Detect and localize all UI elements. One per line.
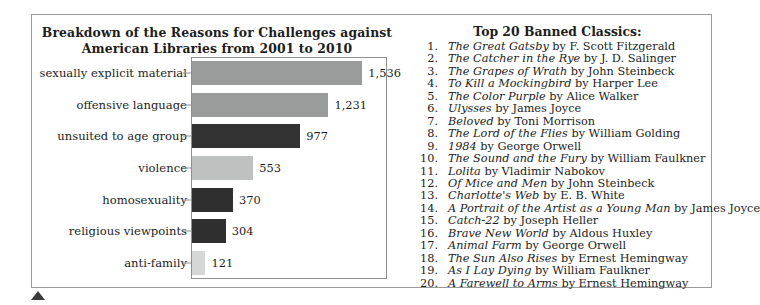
book-item-author: by Ernest Hemingway (558, 277, 689, 290)
book-item-title: As I Lay Dying (448, 264, 531, 277)
bar-row: religious viewpoints304 (32, 216, 402, 248)
book-item-title: Ulysses (448, 102, 492, 115)
figure-frame: Breakdown of the Reasons for Challenges … (31, 14, 712, 288)
book-item-author: by E. B. White (539, 189, 624, 202)
bar-value-label: 977 (306, 129, 328, 143)
book-item-title: The Sun Also Rises (448, 252, 557, 265)
book-item-author: by Joseph Heller (500, 214, 599, 227)
axis-tick (183, 104, 191, 105)
bar (192, 61, 362, 85)
bar-row: sexually explicit material1,536 (32, 57, 402, 89)
book-item-title: Beloved (448, 115, 494, 128)
banned-classics-panel: Top 20 Banned Classics: 1.The Great Gats… (404, 15, 711, 287)
book-item-number: 20. (404, 278, 438, 290)
bar-rows-container: sexually explicit material1,536offensive… (32, 57, 402, 279)
book-item-number: 10. (404, 153, 438, 165)
axis-tick (183, 167, 191, 168)
bar (192, 188, 233, 212)
book-item-title: The Grapes of Wrath (448, 65, 567, 78)
bar (192, 219, 226, 243)
book-item-title: The Color Purple (448, 90, 546, 103)
book-item-author: by John Steinbeck (547, 177, 654, 190)
book-item-number: 19. (404, 265, 438, 277)
book-item-author: by James Joyce (492, 102, 582, 115)
book-item-author: by William Faulkner (531, 264, 650, 277)
book-item-author: by F. Scott Fitzgerald (549, 40, 675, 53)
bar-category-label: religious viewpoints (69, 224, 187, 238)
bar-value-label: 304 (232, 224, 254, 238)
bar (192, 93, 328, 117)
chart-title-line-2: American Libraries from 2001 to 2010 (37, 41, 397, 57)
bar-row: anti-family121 (32, 247, 402, 279)
book-item-author: by James Joyce (671, 202, 760, 215)
corner-triangle-marker (31, 291, 45, 300)
book-item-title: To Kill a Mockingbird (448, 77, 571, 90)
book-item-title: A Farewell to Arms (448, 277, 558, 290)
book-item-author: by William Golding (568, 127, 681, 140)
axis-tick (183, 263, 191, 264)
book-item-number: 17. (404, 240, 438, 252)
book-item-author: by Alice Walker (546, 90, 639, 103)
book-item-author: by Toni Morrison (494, 115, 595, 128)
bar (192, 251, 205, 275)
book-item-author: by Harper Lee (571, 77, 658, 90)
book-item-title: 1984 (448, 140, 477, 153)
book-item-author: by Ernest Hemingway (557, 252, 688, 265)
book-item-title: Animal Farm (448, 239, 522, 252)
axis-tick (183, 231, 191, 232)
bar (192, 156, 253, 180)
book-item-author: by William Faulkner (587, 152, 706, 165)
bar-category-label: violence (138, 161, 187, 175)
book-list: 1.The Great Gatsby by F. Scott Fitzgeral… (404, 41, 711, 290)
book-item-title: The Lord of the Flies (448, 127, 568, 140)
book-item-author: by John Steinbeck (567, 65, 674, 78)
bar-category-label: sexually explicit material (40, 66, 187, 80)
book-item-title: A Portrait of the Artist as a Young Man (448, 202, 671, 215)
book-item-number: 6. (404, 103, 438, 115)
book-item-title: The Catcher in the Rye (448, 52, 580, 65)
bar-category-label: offensive language (77, 98, 187, 112)
book-item-author: by Vladimir Nabokov (481, 165, 605, 178)
book-item-number: 8. (404, 128, 438, 140)
bar-row: homosexuality370 (32, 184, 402, 216)
bar-category-label: homosexuality (102, 193, 187, 207)
book-item-author: by Aldous Huxley (549, 227, 652, 240)
bar-value-label: 1,536 (368, 66, 401, 80)
book-item-number: 4. (404, 78, 438, 90)
book-item-number: 15. (404, 215, 438, 227)
chart-title-line-1: Breakdown of the Reasons for Challenges … (37, 25, 397, 41)
book-item-title: Brave New World (448, 227, 549, 240)
book-item-title: Charlotte's Web (448, 189, 539, 202)
bar-value-label: 553 (259, 161, 281, 175)
book-item-author: by George Orwell (477, 140, 581, 153)
bar-chart-panel: Breakdown of the Reasons for Challenges … (32, 15, 402, 287)
book-item-title: Catch-22 (448, 214, 500, 227)
book-item-title: Of Mice and Men (448, 177, 547, 190)
axis-tick (183, 72, 191, 73)
book-item-title: The Great Gatsby (448, 40, 549, 53)
book-item-title: Lolita (448, 165, 481, 178)
bar-row: violence553 (32, 152, 402, 184)
bar-value-label: 1,231 (334, 98, 367, 112)
book-item-author: by J. D. Salinger (580, 52, 676, 65)
book-item-author: by George Orwell (522, 239, 626, 252)
chart-title: Breakdown of the Reasons for Challenges … (37, 25, 397, 56)
bar-row: unsuited to age group977 (32, 120, 402, 152)
bar-value-label: 121 (211, 256, 233, 270)
axis-tick (183, 199, 191, 200)
book-item-title: The Sound and the Fury (448, 152, 587, 165)
axis-tick (183, 136, 191, 137)
bar-category-label: anti-family (124, 256, 187, 270)
bar (192, 124, 300, 148)
book-list-title: Top 20 Banned Classics: (404, 24, 711, 39)
book-list-item: 20.A Farewell to Arms by Ernest Hemingwa… (404, 278, 711, 290)
bar-value-label: 370 (239, 193, 261, 207)
bar-row: offensive language1,231 (32, 89, 402, 121)
bar-category-label: unsuited to age group (57, 129, 187, 143)
